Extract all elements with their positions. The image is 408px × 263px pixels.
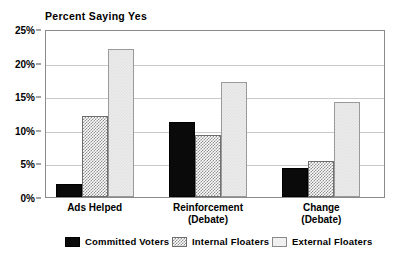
y-axis-tick-label: 25% — [15, 25, 35, 36]
bar — [282, 168, 308, 197]
x-axis-category-label: Reinforcement(Debate) — [173, 202, 243, 225]
bar — [56, 184, 82, 197]
y-axis-tick-mark — [36, 164, 41, 165]
bar — [195, 135, 221, 197]
y-axis-tick-mark — [36, 30, 41, 31]
category-label-line: (Debate) — [301, 214, 341, 226]
bar-chart: Percent Saying Yes 0%5%10%15%20%25% Ads … — [0, 0, 408, 263]
y-axis-tick-label: 15% — [15, 92, 35, 103]
bar — [308, 161, 334, 197]
chart-legend: Committed VotersInternal FloatersExterna… — [0, 236, 408, 256]
legend-label: Committed Voters — [85, 236, 169, 247]
bar — [169, 122, 195, 197]
bar-group — [56, 31, 134, 197]
y-axis-tick-label: 0% — [21, 193, 35, 204]
bar — [334, 102, 360, 197]
category-label-line: (Debate) — [173, 214, 243, 226]
legend-item[interactable]: Internal Floaters — [172, 236, 269, 247]
y-axis-tick-mark — [36, 97, 41, 98]
bar — [221, 82, 247, 197]
legend-item[interactable]: Committed Voters — [65, 236, 169, 247]
plot-area — [45, 30, 385, 198]
y-axis-tick-mark — [36, 198, 41, 199]
bar-group — [282, 31, 360, 197]
x-axis-category-label: Ads Helped — [67, 202, 122, 214]
x-axis-category-labels: Ads HelpedReinforcement(Debate)Change(De… — [45, 202, 385, 232]
bar-group — [169, 31, 247, 197]
legend-item[interactable]: External Floaters — [272, 236, 373, 247]
category-label-line: Reinforcement — [173, 202, 243, 214]
y-axis: 0%5%10%15%20%25% — [0, 30, 41, 198]
y-axis-tick-mark — [36, 63, 41, 64]
bar — [108, 49, 134, 198]
chart-title: Percent Saying Yes — [45, 10, 147, 22]
x-axis-category-label: Change(Debate) — [301, 202, 341, 225]
y-axis-tick-label: 20% — [15, 58, 35, 69]
category-label-line: Ads Helped — [67, 202, 122, 214]
y-axis-tick-label: 10% — [15, 125, 35, 136]
category-label-line: Change — [301, 202, 341, 214]
legend-swatch-icon — [172, 237, 187, 247]
y-axis-tick-label: 5% — [21, 159, 35, 170]
y-axis-tick-mark — [36, 130, 41, 131]
bar — [82, 116, 108, 197]
legend-label: Internal Floaters — [192, 236, 269, 247]
legend-label: External Floaters — [292, 236, 373, 247]
legend-swatch-icon — [65, 237, 80, 247]
legend-swatch-icon — [272, 237, 287, 247]
